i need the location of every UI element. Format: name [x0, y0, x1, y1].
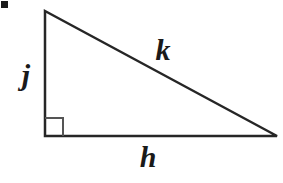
bullet-square-icon — [1, 1, 8, 8]
geometry-diagram: j k h — [0, 0, 283, 183]
right-angle-square-icon — [45, 118, 63, 136]
side-label-h: h — [140, 142, 157, 172]
side-label-k: k — [156, 35, 171, 65]
triangle-outline — [45, 11, 277, 136]
side-label-j: j — [22, 60, 30, 90]
